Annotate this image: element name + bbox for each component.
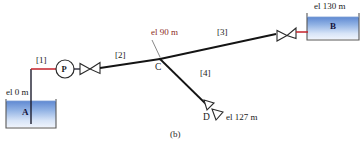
valve-pipe-4-upper-wedge (204, 100, 214, 110)
valve-pipe-2-right-wedge (90, 63, 100, 74)
figure-caption: (b) (170, 130, 181, 139)
pipe-2-label: [2] (115, 51, 126, 60)
valve-pipe-3-right-wedge (287, 28, 296, 39)
tank-a-elevation-label: el 0 m (6, 88, 29, 97)
schematic-canvas (0, 0, 362, 146)
pipe-1-label: [1] (36, 56, 47, 65)
leader-line-el-90 (152, 40, 160, 57)
pump (56, 60, 80, 78)
node-c-elevation-label: el 90 m (151, 28, 178, 37)
pipe-4 (160, 59, 209, 107)
pipe-3 (160, 34, 276, 59)
pump-label: P (62, 65, 67, 74)
node-c-marker (159, 58, 162, 61)
tank-b-label: B (330, 22, 336, 31)
pipe-network-figure: el 0 m A el 130 m B [1] P [2] el 90 m C … (0, 0, 362, 146)
pipe-2 (100, 59, 160, 68)
valve-pipe-2-left-wedge (80, 64, 90, 75)
node-d-label: D (203, 113, 210, 123)
valve-pipe-2 (80, 63, 100, 75)
pipe-4-label: [4] (200, 69, 211, 78)
valve-pipe-3-left-wedge (277, 31, 287, 42)
node-d-elevation-label: el 127 m (226, 113, 258, 122)
tank-a-label: A (22, 108, 29, 117)
valve-pipe-3 (277, 28, 296, 41)
tank-b-elevation-label: el 130 m (314, 2, 346, 11)
pipe-3-label: [3] (217, 28, 228, 37)
valve-pipe-4-lower-wedge (212, 109, 223, 120)
node-c-label: C (155, 63, 161, 73)
